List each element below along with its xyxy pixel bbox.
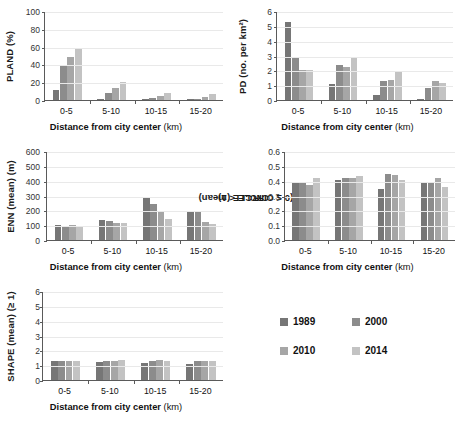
bar[interactable] — [435, 178, 441, 240]
gridline — [285, 167, 455, 168]
bar[interactable] — [103, 361, 110, 380]
bar[interactable] — [69, 225, 76, 240]
bar[interactable] — [388, 80, 395, 100]
bar[interactable] — [209, 361, 216, 380]
chart-panel-pd: PD (no. per km²) 0123456 0-55-1010-1515-… — [232, 0, 463, 140]
bar[interactable] — [356, 176, 362, 240]
gridline — [277, 27, 453, 28]
bar[interactable] — [201, 361, 208, 380]
y-tick-mark — [40, 307, 44, 308]
bar[interactable] — [99, 220, 106, 240]
bar[interactable] — [165, 219, 172, 241]
bar[interactable] — [373, 95, 380, 100]
x-tick-label: 0-5 — [58, 386, 71, 396]
bar[interactable] — [120, 82, 127, 100]
y-tick-label: 80 — [31, 25, 40, 35]
bar[interactable] — [106, 221, 113, 240]
bar[interactable] — [112, 88, 119, 100]
legend-row: 2010 2014 — [280, 345, 430, 356]
bar[interactable] — [73, 361, 80, 380]
y-tick-mark — [42, 48, 46, 49]
bar[interactable] — [75, 48, 82, 100]
gridline — [45, 48, 223, 49]
gridline — [47, 182, 223, 183]
bar[interactable] — [425, 88, 432, 100]
y-tick-mark — [42, 12, 46, 13]
bar[interactable] — [380, 81, 387, 100]
x-tick-label: 10-15 — [375, 106, 398, 116]
legend-item-1989[interactable]: 1989 — [280, 316, 352, 327]
bar[interactable] — [442, 187, 448, 240]
y-tick-mark — [42, 30, 46, 31]
bar[interactable] — [118, 360, 125, 380]
bar[interactable] — [62, 226, 69, 240]
legend-label: 2000 — [365, 316, 387, 327]
enn-chart: ENN (mean) (m) 0100200300400500600 0-55-… — [0, 140, 232, 280]
bar[interactable] — [202, 97, 209, 100]
bar[interactable] — [335, 180, 341, 240]
bar[interactable] — [392, 175, 398, 240]
y-tick-label: 200 — [26, 206, 40, 216]
bar[interactable] — [51, 361, 58, 380]
bar[interactable] — [164, 93, 171, 100]
bar[interactable] — [97, 99, 104, 100]
y-tick-mark — [40, 381, 44, 382]
bar[interactable] — [164, 361, 171, 380]
bar[interactable] — [417, 99, 424, 100]
y-tick-mark — [44, 241, 48, 242]
y-tick-mark — [42, 101, 46, 102]
bar[interactable] — [187, 99, 194, 100]
bar[interactable] — [351, 58, 358, 100]
y-tick-mark — [274, 71, 278, 72]
bar[interactable] — [399, 180, 405, 240]
bar[interactable] — [157, 96, 164, 100]
y-tick-mark — [44, 226, 48, 227]
bar[interactable] — [143, 198, 150, 240]
legend-label: 2010 — [293, 345, 315, 356]
legend-item-2014[interactable]: 2014 — [352, 345, 424, 356]
bar[interactable] — [342, 178, 348, 240]
x-tick-label: 15-20 — [190, 246, 213, 256]
y-tick-label: 100 — [26, 7, 40, 17]
gridline — [47, 211, 223, 212]
bar[interactable] — [149, 361, 156, 380]
bar[interactable] — [385, 174, 391, 240]
bar[interactable] — [113, 223, 120, 241]
x-tick-label: 5-10 — [339, 246, 357, 256]
bar[interactable] — [105, 93, 112, 100]
bar[interactable] — [67, 57, 74, 100]
bar[interactable] — [432, 81, 439, 100]
pland-y-tick-labels: 020406080100 — [14, 12, 40, 100]
pd-y-tick-labels: 0123456 — [246, 12, 272, 100]
bar[interactable] — [306, 70, 313, 100]
bar[interactable] — [149, 98, 156, 100]
legend-item-2010[interactable]: 2010 — [280, 345, 352, 356]
bar[interactable] — [96, 362, 103, 380]
gridline — [45, 83, 223, 84]
pd-chart: PD (no. per km²) 0123456 0-55-1010-1515-… — [232, 0, 463, 140]
bar[interactable] — [202, 222, 209, 240]
bar[interactable] — [194, 99, 201, 100]
bar[interactable] — [194, 361, 201, 380]
bar[interactable] — [292, 57, 299, 100]
bar[interactable] — [142, 99, 149, 100]
bar[interactable] — [285, 22, 292, 100]
legend-item-2000[interactable]: 2000 — [352, 316, 424, 327]
bar[interactable] — [209, 94, 216, 100]
bar[interactable] — [306, 185, 312, 240]
bar[interactable] — [299, 70, 306, 100]
bar[interactable] — [58, 361, 65, 380]
bar[interactable] — [66, 361, 73, 380]
bar[interactable] — [156, 360, 163, 380]
x-tick-mark — [180, 240, 181, 244]
bar[interactable] — [111, 361, 118, 380]
bar[interactable] — [150, 204, 157, 240]
bar[interactable] — [53, 90, 60, 101]
bar[interactable] — [76, 227, 83, 240]
y-tick-mark — [40, 292, 44, 293]
bar[interactable] — [349, 178, 355, 240]
x-tick-label: 15-20 — [189, 386, 212, 396]
bar[interactable] — [313, 178, 319, 240]
shape-plot-area — [42, 292, 223, 381]
y-tick-label: 0.6 — [268, 147, 280, 157]
